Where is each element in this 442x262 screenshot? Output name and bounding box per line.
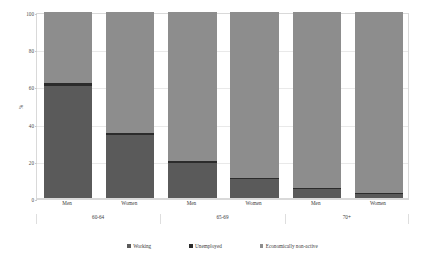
group-separator [408, 214, 409, 224]
y-tick-label: 20 [29, 160, 34, 166]
bar-segment-working[interactable] [355, 194, 403, 198]
bar-column[interactable] [168, 14, 216, 198]
bar-segment-unemployed[interactable] [355, 193, 403, 194]
y-tick-label: 0 [31, 197, 34, 203]
group-separator [36, 214, 37, 224]
group-label: 65-69 [160, 214, 284, 220]
bar-segment-working[interactable] [106, 135, 154, 198]
bar-column[interactable] [230, 14, 278, 198]
chart-legend: WorkingUnemployedEconomically non-active [36, 240, 409, 252]
legend-label: Working [133, 243, 151, 249]
bar-column[interactable] [293, 14, 341, 198]
group-separator [285, 214, 286, 224]
legend-swatch-icon [260, 244, 263, 247]
x-axis-group-labels: 60-6465-6970+ [36, 214, 409, 226]
bar-segment-unemployed[interactable] [168, 161, 216, 163]
legend-item[interactable]: Working [127, 243, 151, 249]
bar-segment-unemployed[interactable] [44, 83, 92, 87]
bar-column[interactable] [44, 14, 92, 198]
legend-swatch-icon [127, 244, 130, 247]
category-label: Women [223, 200, 285, 206]
bar-column[interactable] [106, 14, 154, 198]
legend-label: Economically non-active [266, 243, 318, 249]
bar-segment-economically-non-active[interactable] [44, 12, 92, 83]
category-label: Men [285, 200, 347, 206]
bar-segment-working[interactable] [230, 179, 278, 198]
bars-layer [37, 14, 408, 198]
chart-container: % 100806040200 MenWomenMenWomenMenWomen … [0, 0, 442, 262]
plot-area: 100806040200 [36, 13, 409, 199]
group-label: 70+ [285, 214, 409, 220]
x-axis-category-labels: MenWomenMenWomenMenWomen [36, 200, 409, 212]
category-label: Men [160, 200, 222, 206]
y-tick-label: 100 [26, 11, 34, 17]
bar-segment-unemployed[interactable] [230, 178, 278, 180]
bar-segment-economically-non-active[interactable] [230, 12, 278, 178]
legend-swatch-icon [189, 244, 192, 247]
y-tick-label: 60 [29, 85, 34, 91]
legend-label: Unemployed [195, 243, 222, 249]
bar-segment-economically-non-active[interactable] [293, 12, 341, 188]
bar-segment-working[interactable] [293, 189, 341, 198]
bar-column[interactable] [355, 14, 403, 198]
group-separator [160, 214, 161, 224]
group-label: 60-64 [36, 214, 160, 220]
bar-segment-unemployed[interactable] [293, 188, 341, 189]
bar-segment-working[interactable] [44, 86, 92, 198]
category-label: Women [98, 200, 160, 206]
y-axis-title: % [18, 100, 24, 114]
y-tick-label: 80 [29, 48, 34, 54]
bar-segment-economically-non-active[interactable] [168, 12, 216, 161]
bar-segment-economically-non-active[interactable] [355, 12, 403, 193]
bar-segment-unemployed[interactable] [106, 133, 154, 135]
legend-item[interactable]: Unemployed [189, 243, 222, 249]
bar-segment-working[interactable] [168, 163, 216, 198]
y-tick-label: 40 [29, 123, 34, 129]
bar-segment-economically-non-active[interactable] [106, 12, 154, 133]
category-label: Women [347, 200, 409, 206]
category-label: Men [36, 200, 98, 206]
legend-item[interactable]: Economically non-active [260, 243, 318, 249]
